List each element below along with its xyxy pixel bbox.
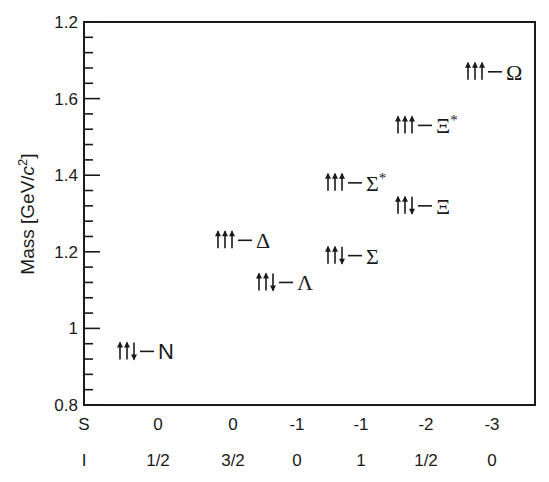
isospin-value: 1 xyxy=(356,451,365,470)
y-tick-label: 1.4 xyxy=(54,166,78,185)
baryon-mass-chart: 0.811.21.41.61.2 Mass [GeV/c2] NΔΛΣΣ*ΞΞ*… xyxy=(0,0,549,482)
particle-sigma: Σ xyxy=(325,244,379,269)
isospin-value: 1/2 xyxy=(146,451,170,470)
y-tick-label: 0.8 xyxy=(54,396,78,415)
particle-sigma-star: Σ* xyxy=(325,170,386,196)
arrow-head xyxy=(229,230,235,236)
particle-symbol: Λ xyxy=(297,270,313,295)
arrow-head xyxy=(117,341,123,347)
arrow-head xyxy=(325,173,331,179)
strangeness-value: 0 xyxy=(228,415,237,434)
particle-n: N xyxy=(117,339,174,364)
y-axis-tick-labels: 0.811.21.41.61.2 xyxy=(54,13,78,415)
particle-symbol: Ξ xyxy=(436,194,450,219)
particle-symbol: N xyxy=(158,339,174,364)
arrow-head xyxy=(409,115,415,121)
isospin-value: 0 xyxy=(292,451,301,470)
particle-xi-star: Ξ* xyxy=(395,112,458,138)
particle-symbol: Σ xyxy=(366,244,379,269)
arrow-head xyxy=(124,341,130,347)
y-tick-label: 1.2 xyxy=(54,13,78,32)
strangeness-value: 0 xyxy=(153,415,162,434)
strangeness-value: -1 xyxy=(289,415,304,434)
arrow-head xyxy=(131,354,137,360)
arrow-head xyxy=(270,285,276,291)
arrow-head xyxy=(479,62,485,68)
particle-lambda: Λ xyxy=(256,270,313,295)
y-axis-label: Mass [GeV/c2] xyxy=(15,153,38,274)
y-tick-label: 1 xyxy=(69,319,78,338)
isospin-value: 1/2 xyxy=(414,451,438,470)
row-label-i: I xyxy=(82,451,87,470)
arrow-head xyxy=(222,230,228,236)
strangeness-value: -1 xyxy=(353,415,368,434)
arrow-head xyxy=(339,259,345,265)
arrow-head xyxy=(402,115,408,121)
particle-symbol: Δ xyxy=(256,228,270,253)
particle-xi: Ξ xyxy=(395,194,450,219)
particle-omega: Ω xyxy=(465,60,522,85)
arrow-head xyxy=(215,230,221,236)
arrow-head xyxy=(263,272,269,278)
isospin-value: 3/2 xyxy=(221,451,245,470)
arrow-head xyxy=(472,62,478,68)
y-tick-label: 1.2 xyxy=(54,243,78,262)
arrow-head xyxy=(332,246,338,252)
arrow-head xyxy=(339,173,345,179)
arrow-head xyxy=(325,246,331,252)
y-tick-label: 1.6 xyxy=(54,90,78,109)
arrow-head xyxy=(409,209,415,215)
quantum-number-rows: SI01/203/2-10-11-21/2-30 xyxy=(78,415,499,470)
particle-symbol: Ω xyxy=(506,60,522,85)
arrow-head xyxy=(332,173,338,179)
arrow-head xyxy=(256,272,262,278)
row-label-s: S xyxy=(78,415,89,434)
particle-delta: Δ xyxy=(215,228,270,253)
arrow-head xyxy=(465,62,471,68)
strangeness-value: -2 xyxy=(418,415,433,434)
strangeness-value: -3 xyxy=(484,415,499,434)
isospin-value: 0 xyxy=(487,451,496,470)
y-axis-title: Mass [GeV/c2] xyxy=(15,153,38,274)
arrow-head xyxy=(395,115,401,121)
y-axis-ticks xyxy=(84,22,100,405)
particle-symbol: Σ* xyxy=(366,170,386,196)
particle-symbol: Ξ* xyxy=(436,112,458,138)
particle-labels: NΔΛΣΣ*ΞΞ*Ω xyxy=(117,60,522,365)
arrow-head xyxy=(395,196,401,202)
arrow-head xyxy=(402,196,408,202)
